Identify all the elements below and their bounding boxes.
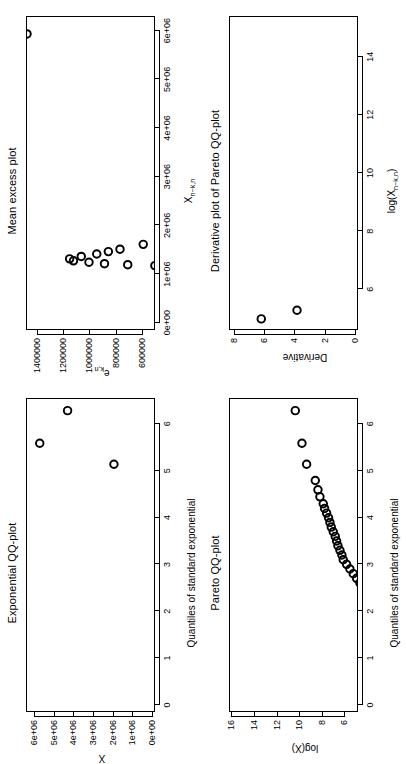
y-tick-label: 2e+06	[108, 720, 118, 745]
x-axis-line	[159, 424, 160, 705]
x-tick	[155, 127, 160, 128]
ylabel-exponential-qq-plot: X	[98, 753, 105, 764]
x-tick-label: 1	[365, 656, 375, 661]
xlabel-exponential-qq-plot: Quantiles of standard exponential	[186, 382, 197, 764]
y-tick	[152, 712, 153, 717]
x-tick-label: 0	[162, 702, 172, 707]
x-tick-label: 0	[365, 702, 375, 707]
x-tick	[155, 224, 160, 225]
y-tick-label: 5e+06	[49, 720, 59, 745]
y-tick-label: 12	[272, 720, 282, 730]
y-tick-label: 6	[339, 720, 349, 725]
y-tick-label: 1e+06	[127, 720, 137, 745]
x-tick	[155, 704, 160, 705]
y-tick	[322, 712, 323, 717]
figure-canvas: Exponential QQ-plot 01234560e+001e+062e+…	[0, 0, 406, 764]
x-tick	[155, 563, 160, 564]
x-tick-label: 5e+06	[162, 67, 172, 92]
x-tick-label: 14	[365, 52, 375, 62]
y-tick-label: 600000	[137, 338, 147, 368]
y-tick	[254, 712, 255, 717]
scatter-points-pareto-qq-plot	[230, 399, 358, 711]
x-tick	[358, 704, 363, 705]
panel-title-exponential-qq-plot: Exponential QQ-plot	[6, 382, 18, 764]
y-tick	[37, 330, 38, 335]
scatter-points-mean-excess-plot	[27, 17, 155, 329]
y-tick-label: 2	[320, 338, 330, 343]
ylabel-pareto-qq-plot: log(X)	[291, 743, 318, 754]
x-tick	[155, 322, 160, 323]
x-tick-label: 5	[162, 468, 172, 473]
panel-title-derivative-plot: Derivative plot of Pareto QQ-plot	[209, 0, 221, 382]
y-tick	[277, 712, 278, 717]
x-tick	[358, 610, 363, 611]
x-tick-label: 4e+06	[162, 115, 172, 140]
x-tick	[155, 273, 160, 274]
x-tick	[358, 517, 363, 518]
x-axis-line	[362, 57, 363, 290]
y-tick	[142, 330, 143, 335]
y-tick-label: 800000	[111, 338, 121, 368]
panel-pareto-qq-plot: Pareto QQ-plot 01234566810121416 Quantil…	[203, 382, 406, 764]
y-tick-label: 8	[229, 338, 239, 343]
x-tick-label: 6	[365, 421, 375, 426]
y-tick	[93, 712, 94, 717]
x-tick-label: 6e+06	[162, 18, 172, 43]
x-tick	[358, 470, 363, 471]
x-tick-label: 0e+00	[162, 310, 172, 335]
scatter-points-exponential-qq-plot	[27, 399, 155, 711]
plot-area-derivative-plot	[229, 16, 358, 330]
x-tick	[358, 230, 363, 231]
panel-derivative-plot: Derivative plot of Pareto QQ-plot 681012…	[203, 0, 406, 382]
x-tick-label: 10	[365, 168, 375, 178]
x-tick	[358, 288, 363, 289]
x-axis-line	[362, 424, 363, 705]
panel-title-mean-excess-plot: Mean excess plot	[6, 0, 18, 382]
y-tick-label: 8	[317, 720, 327, 725]
y-tick-label: 14	[249, 720, 259, 730]
y-tick-label: 0e+00	[147, 720, 157, 745]
y-tick-label: 1400000	[32, 338, 42, 373]
x-tick-label: 6	[162, 421, 172, 426]
plot-area-pareto-qq-plot	[229, 398, 358, 712]
y-tick	[132, 712, 133, 717]
y-axis-line	[231, 716, 344, 717]
x-tick	[358, 56, 363, 57]
y-tick	[294, 330, 295, 335]
x-tick	[358, 172, 363, 173]
x-tick	[155, 657, 160, 658]
x-tick-label: 2	[365, 609, 375, 614]
y-tick	[34, 712, 35, 717]
x-tick	[155, 470, 160, 471]
y-tick-label: 3e+06	[88, 720, 98, 745]
y-tick-label: 1200000	[58, 338, 68, 373]
y-tick	[264, 330, 265, 335]
x-tick-label: 5	[365, 468, 375, 473]
panel-mean-excess-plot: Mean excess plot 0e+001e+062e+063e+064e+…	[0, 0, 203, 382]
x-tick-label: 8	[365, 229, 375, 234]
x-tick-label: 3	[365, 562, 375, 567]
x-tick-label: 3e+06	[162, 164, 172, 189]
y-tick-label: 16	[226, 720, 236, 730]
x-tick-label: 4	[365, 515, 375, 520]
panel-exponential-qq-plot: Exponential QQ-plot 01234560e+001e+062e+…	[0, 382, 203, 764]
x-tick	[155, 30, 160, 31]
xlabel-pareto-qq-plot: Quantiles of standard exponential	[389, 382, 400, 764]
y-tick	[116, 330, 117, 335]
y-tick-label: 0	[350, 338, 360, 343]
x-tick-label: 1	[162, 656, 172, 661]
y-tick	[234, 330, 235, 335]
y-tick-label: 10	[294, 720, 304, 730]
x-tick-label: 4	[162, 515, 172, 520]
x-tick	[358, 657, 363, 658]
ylabel-mean-excess-plot: ek,n	[94, 365, 109, 379]
y-tick-label: 4e+06	[68, 720, 78, 745]
plot-area-mean-excess-plot	[26, 16, 155, 330]
y-tick	[73, 712, 74, 717]
y-tick	[54, 712, 55, 717]
x-tick	[358, 563, 363, 564]
plot-area-exponential-qq-plot	[26, 398, 155, 712]
x-tick	[155, 517, 160, 518]
panel-grid: Exponential QQ-plot 01234560e+001e+062e+…	[0, 0, 406, 764]
x-tick	[358, 114, 363, 115]
